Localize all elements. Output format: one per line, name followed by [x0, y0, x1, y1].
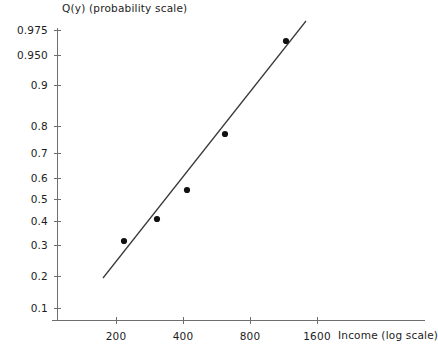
y-tick-label: 0.1 [6, 302, 48, 314]
data-point [154, 216, 160, 222]
x-tick-label: 1600 [294, 330, 340, 342]
axes-group [52, 28, 425, 321]
y-tick-label: 0.5 [6, 193, 48, 205]
x-axis-title: Income (log scale) [338, 329, 438, 341]
data-point [121, 238, 127, 244]
y-tick-label: 0.975 [6, 24, 48, 36]
x-tick-label: 400 [160, 330, 206, 342]
data-point [222, 131, 228, 137]
data-point [184, 187, 190, 193]
y-tick-label: 0.9 [6, 79, 48, 91]
data-point [283, 38, 289, 44]
x-tick-label: 800 [227, 330, 273, 342]
x-tick-label: 200 [93, 330, 139, 342]
probit-chart: Q(y) (probability scale) Income (log sca… [0, 0, 438, 351]
y-tick-label: 0.2 [6, 270, 48, 282]
y-tick-label: 0.950 [6, 49, 48, 61]
data-points [121, 38, 289, 244]
fit-line [103, 21, 306, 278]
y-axis-title: Q(y) (probability scale) [62, 2, 187, 14]
plot-canvas [0, 0, 438, 351]
y-tick-label: 0.3 [6, 239, 48, 251]
y-tick-label: 0.6 [6, 172, 48, 184]
y-tick-label: 0.7 [6, 147, 48, 159]
y-tick-label: 0.8 [6, 120, 48, 132]
y-tick-label: 0.4 [6, 215, 48, 227]
